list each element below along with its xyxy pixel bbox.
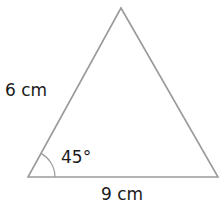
angle-label: 45°: [61, 147, 91, 167]
triangle-shape: [28, 8, 218, 177]
triangle-diagram: 6 cm 45° 9 cm: [0, 0, 224, 210]
left-side-length-label: 6 cm: [5, 80, 47, 100]
angle-arc-icon: [41, 153, 55, 177]
base-length-label: 9 cm: [101, 184, 143, 204]
